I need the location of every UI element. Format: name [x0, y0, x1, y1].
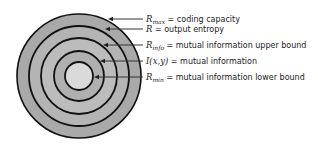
label-text: = mutual information upper bound	[164, 41, 306, 50]
arrowhead-icon	[108, 17, 113, 21]
ring-4	[65, 62, 93, 90]
label-text: = mutual information	[168, 57, 257, 66]
label-rmin: Rmin = mutual information lower bound	[146, 72, 305, 85]
label-text: = coding capacity	[165, 15, 240, 24]
label-text: = output entropy	[152, 25, 224, 34]
label-ixy: I(x,y) = mutual information	[146, 56, 257, 69]
label-subscript: info	[152, 44, 164, 51]
rings-group	[17, 14, 141, 138]
label-symbol: I(x,y)	[146, 56, 168, 66]
label-r: R = output entropy	[146, 24, 224, 37]
label-rinfo: Rinfo = mutual information upper bound	[146, 40, 306, 53]
label-text: = mutual information lower bound	[164, 73, 305, 82]
label-subscript: min	[152, 76, 163, 83]
